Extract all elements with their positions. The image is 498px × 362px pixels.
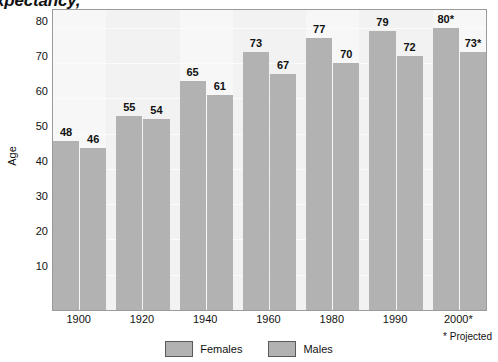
bar-females-1980 [306, 38, 332, 310]
bar-label-males-1900: 46 [80, 133, 106, 145]
bar-label-females-1990: 79 [369, 16, 395, 28]
y-tick-50: 50 [2, 120, 48, 132]
bar-females-2000 [433, 28, 459, 310]
bar-males-1920 [143, 119, 169, 310]
chart-legend: Females Males [0, 341, 498, 357]
x-tick-1980: 1980 [305, 313, 358, 325]
x-tick-1900: 1900 [52, 313, 105, 325]
y-tick-60: 60 [2, 85, 48, 97]
bar-males-1940 [207, 95, 233, 310]
bar-label-males-1990: 72 [397, 41, 423, 53]
legend-label-males: Males [303, 343, 332, 355]
bar-label-females-1940: 65 [180, 66, 206, 78]
bar-label-males-1940: 61 [207, 80, 233, 92]
bar-label-females-2000: 80* [433, 13, 459, 25]
bar-label-males-1960: 67 [270, 59, 296, 71]
bar-males-1990 [397, 56, 423, 310]
y-tick-30: 30 [2, 190, 48, 202]
x-axis: 1900 1920 1940 1960 1980 1990 2000* [52, 313, 487, 331]
bar-males-1900 [80, 148, 106, 310]
bar-label-females-1900: 48 [53, 126, 79, 138]
bar-males-1980 [333, 63, 359, 310]
legend-swatch-males [268, 341, 296, 357]
bar-females-1900 [53, 141, 79, 310]
x-tick-2000: 2000* [432, 313, 485, 325]
legend-item-females: Females [165, 341, 242, 357]
legend-label-females: Females [200, 343, 242, 355]
x-tick-1990: 1990 [368, 313, 421, 325]
y-axis-title: Age [6, 136, 18, 176]
y-tick-10: 10 [2, 260, 48, 272]
y-tick-70: 70 [2, 50, 48, 62]
bar-label-females-1980: 77 [306, 23, 332, 35]
chart-plot-area: 48465554656173677770797280*73* [52, 9, 487, 311]
y-tick-20: 20 [2, 225, 48, 237]
y-tick-80: 80 [2, 15, 48, 27]
bar-label-males-1980: 70 [333, 48, 359, 60]
bar-females-1920 [116, 116, 142, 310]
bar-males-1960 [270, 74, 296, 310]
bar-females-1960 [243, 52, 269, 310]
bar-label-females-1920: 55 [116, 101, 142, 113]
x-tick-1940: 1940 [179, 313, 232, 325]
bar-label-males-2000: 73* [460, 37, 486, 49]
legend-swatch-females [165, 341, 193, 357]
bar-males-2000 [460, 52, 486, 310]
bar-label-males-1920: 54 [143, 104, 169, 116]
bar-label-females-1960: 73 [243, 37, 269, 49]
bar-females-1940 [180, 81, 206, 310]
x-tick-1920: 1920 [115, 313, 168, 325]
gridline-80 [53, 28, 486, 29]
x-tick-1960: 1960 [242, 313, 295, 325]
bar-females-1990 [369, 31, 395, 310]
legend-item-males: Males [268, 341, 332, 357]
